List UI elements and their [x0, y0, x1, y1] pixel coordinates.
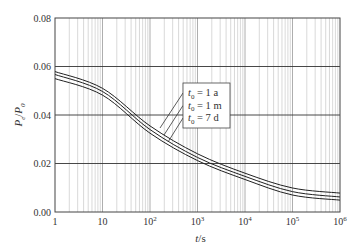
- y-tick-label: 0.06: [34, 61, 52, 72]
- x-axis-label: t/s: [195, 232, 205, 244]
- x-tick-label: 106: [333, 215, 347, 227]
- x-tick-label: 10: [98, 216, 108, 227]
- y-axis-ticks: 0.000.020.040.060.08: [34, 13, 52, 218]
- x-tick-label: 104: [238, 215, 252, 227]
- x-tick-label: 102: [143, 215, 157, 227]
- y-tick-label: 0.00: [34, 207, 52, 218]
- chart-container: t0 = 1 at0 = 1 mt0 = 7 d 0.000.020.040.0…: [0, 0, 358, 252]
- y-tick-label: 0.04: [34, 110, 52, 121]
- x-axis-ticks: 110102103104105106: [53, 215, 348, 227]
- leader-line-2: [164, 106, 183, 136]
- y-axis-label: Pe/P0: [12, 103, 27, 128]
- legend: t0 = 1 at0 = 1 mt0 = 7 d: [183, 83, 230, 128]
- line-chart: t0 = 1 at0 = 1 mt0 = 7 d 0.000.020.040.0…: [0, 0, 358, 252]
- x-tick-label: 1: [53, 216, 58, 227]
- x-tick-label: 105: [286, 215, 300, 227]
- y-tick-label: 0.08: [34, 13, 52, 24]
- y-tick-label: 0.02: [34, 158, 52, 169]
- x-tick-label: 103: [191, 215, 205, 227]
- leader-line-3: [168, 118, 183, 142]
